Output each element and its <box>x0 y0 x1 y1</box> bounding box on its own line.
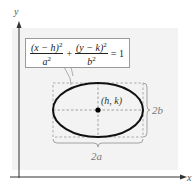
center-label: (h, k) <box>101 95 122 106</box>
term2-numerator-exponent: 2 <box>103 41 107 49</box>
equation-term-x: (x − h)2 a2 <box>30 40 63 67</box>
term1-numerator-exponent: 2 <box>59 41 63 49</box>
equation-term-y: (y − k)2 b2 <box>75 40 108 67</box>
term2-denominator-exponent: 2 <box>92 55 96 63</box>
plus-sign: + <box>66 48 72 59</box>
equals-one: = 1 <box>111 48 124 59</box>
x-axis-arrow-icon <box>180 175 187 180</box>
equation-callout: (x − h)2 a2 + (y − k)2 b2 = 1 <box>25 38 130 68</box>
term1-denominator-exponent: 2 <box>47 55 51 63</box>
term2-numerator: (y − k) <box>76 42 103 53</box>
ellipse-figure: y x (x − h)2 a2 + (y − k)2 b2 = 1 (h, k)… <box>0 0 193 185</box>
y-axis-arrow-icon <box>17 21 22 28</box>
vertical-extent-label: 2b <box>152 104 163 116</box>
term1-numerator: (x − h) <box>31 42 59 53</box>
horizontal-extent-label: 2a <box>91 150 102 162</box>
center-point <box>95 107 100 112</box>
x-axis-label: x <box>187 172 191 183</box>
y-axis-label: y <box>14 6 18 17</box>
